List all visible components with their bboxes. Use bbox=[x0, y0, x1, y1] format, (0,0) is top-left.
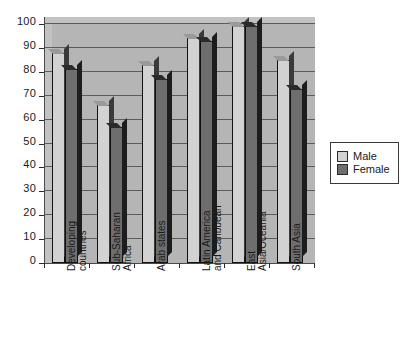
x-tick bbox=[44, 263, 45, 268]
x-axis-label-line1: Developing bbox=[66, 221, 77, 271]
x-axis-label-line2: Asia/Oceania bbox=[257, 212, 268, 271]
x-axis-label-line1: Sub-Saharan bbox=[111, 212, 122, 271]
bar-top-face bbox=[138, 61, 154, 66]
bar-male[interactable] bbox=[52, 53, 65, 263]
y-tick-20: 20 bbox=[0, 215, 44, 216]
x-axis-label-line2: Africa bbox=[122, 212, 133, 271]
y-tick-30: 30 bbox=[0, 191, 44, 192]
x-axis-label: Sub-SaharanAfrica bbox=[111, 212, 133, 271]
chart-legend: Male Female bbox=[330, 142, 399, 184]
y-tick-label: 100 bbox=[17, 16, 36, 27]
x-axis-label-line2: and Caribbean bbox=[212, 205, 223, 271]
y-tick-label: 80 bbox=[23, 64, 36, 75]
bar-male[interactable] bbox=[97, 105, 110, 263]
x-tick bbox=[179, 263, 180, 268]
x-axis-label: Arab states bbox=[156, 220, 167, 271]
x-tick bbox=[269, 263, 270, 268]
bar-male[interactable] bbox=[277, 60, 290, 263]
bar-top-face bbox=[48, 49, 64, 54]
y-tick-40: 40 bbox=[0, 167, 44, 168]
legend-label-female: Female bbox=[353, 164, 390, 175]
bar-chart: 1009080706050403020100 Developingcountri… bbox=[0, 0, 402, 350]
y-tick-label: 60 bbox=[23, 112, 36, 123]
y-axis: 1009080706050403020100 bbox=[0, 0, 44, 263]
x-tick bbox=[224, 263, 225, 268]
y-tick-100: 100 bbox=[0, 24, 44, 25]
y-tick-label: 70 bbox=[23, 88, 36, 99]
y-tick-label: 30 bbox=[23, 183, 36, 194]
legend-swatch-female-icon bbox=[337, 164, 348, 175]
legend-label-male: Male bbox=[353, 151, 377, 162]
bar-right-face bbox=[302, 80, 307, 257]
x-tick bbox=[314, 263, 315, 268]
bar-male[interactable] bbox=[232, 26, 245, 263]
x-axis-label-line1: South Asia bbox=[291, 223, 302, 271]
bar-right-face bbox=[167, 70, 172, 257]
bar-top-face bbox=[93, 101, 109, 106]
y-tick-60: 60 bbox=[0, 120, 44, 121]
y-tick-label: 90 bbox=[23, 40, 36, 51]
x-tick bbox=[134, 263, 135, 268]
x-axis-label-line1: Arab states bbox=[156, 220, 167, 271]
x-axis-label-line1: Latin America bbox=[201, 210, 212, 271]
x-axis-label: Latin Americaand Caribbean bbox=[201, 205, 223, 271]
y-tick-label: 40 bbox=[23, 159, 36, 170]
y-tick-label: 0 bbox=[30, 255, 36, 266]
bar-top-face bbox=[273, 56, 289, 61]
x-tick bbox=[89, 263, 90, 268]
x-axis-label-line2: countries bbox=[77, 221, 88, 271]
y-tick-0: 0 bbox=[0, 263, 44, 264]
y-tick-50: 50 bbox=[0, 144, 44, 145]
y-tick-10: 10 bbox=[0, 239, 44, 240]
y-tick-label: 20 bbox=[23, 207, 36, 218]
bar-male[interactable] bbox=[142, 65, 155, 263]
y-tick-80: 80 bbox=[0, 72, 44, 73]
legend-swatch-male-icon bbox=[337, 151, 348, 162]
bar-male[interactable] bbox=[187, 38, 200, 263]
x-axis-label: South Asia bbox=[291, 223, 302, 271]
y-tick-90: 90 bbox=[0, 48, 44, 49]
y-tick-label: 10 bbox=[23, 231, 36, 242]
legend-item-male[interactable]: Male bbox=[337, 151, 390, 162]
legend-item-female[interactable]: Female bbox=[337, 164, 390, 175]
x-axis-label: EastAsia/Oceania bbox=[246, 212, 268, 271]
x-axis-labels: DevelopingcountriesSub-SaharanAfricaArab… bbox=[44, 263, 314, 350]
y-tick-70: 70 bbox=[0, 96, 44, 97]
y-tick-label: 50 bbox=[23, 136, 36, 147]
x-axis-label-line1: East bbox=[246, 251, 257, 271]
x-axis-label: Developingcountries bbox=[66, 221, 88, 271]
